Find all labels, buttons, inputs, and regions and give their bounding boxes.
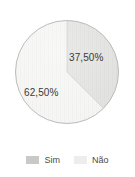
slice-value-label-sim: 62,50%	[24, 88, 59, 98]
legend-item-sim[interactable]: Sim	[26, 156, 60, 165]
pie-chart-plot-area: 37,50% 62,50%	[0, 0, 135, 140]
legend-label-nao: Não	[92, 156, 109, 165]
slice-value-label-nao: 37,50%	[69, 53, 104, 63]
legend-label-sim: Sim	[44, 156, 60, 165]
pie-chart-figure: 37,50% 62,50% Sim Não	[0, 0, 135, 177]
legend-swatch-sim-icon	[26, 156, 39, 164]
legend-swatch-nao-icon	[74, 156, 87, 164]
legend-item-nao[interactable]: Não	[74, 156, 109, 165]
pie-chart-svg	[0, 0, 135, 140]
chart-legend: Sim Não	[0, 150, 135, 170]
